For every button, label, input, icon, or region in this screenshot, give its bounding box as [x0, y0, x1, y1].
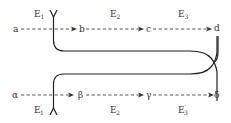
top-path-curve: [50, 10, 218, 101]
node-gamma: γ: [146, 90, 151, 100]
edge-label-e2-prime: E′2: [110, 103, 120, 116]
diagram-canvas: a b c d E1 E2 E3 α β γ δ E′1 E′2 E′3: [0, 0, 231, 123]
node-beta: β: [78, 90, 83, 100]
node-d: d: [214, 23, 220, 33]
edge-label-e1-prime: E′1: [34, 103, 44, 116]
edge-label-e3: E3: [178, 9, 189, 20]
node-c: c: [146, 24, 151, 34]
node-b: b: [79, 24, 85, 34]
top-chain-arrows: [21, 27, 212, 32]
bottom-chain-arrows: [21, 93, 214, 98]
edge-label-e2: E2: [110, 9, 121, 20]
edge-label-e1: E1: [34, 9, 44, 20]
bottom-path-curve: [50, 36, 217, 115]
node-delta: δ: [214, 90, 219, 100]
node-a: a: [13, 24, 19, 34]
node-alpha: α: [12, 90, 18, 100]
edge-label-e3-prime: E′3: [178, 103, 188, 116]
